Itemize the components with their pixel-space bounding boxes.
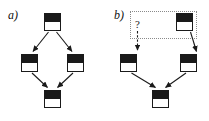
node-right-empty-half bbox=[181, 63, 196, 71]
edge-top-to-right bbox=[57, 32, 73, 52]
node-top-empty-half bbox=[45, 22, 60, 30]
node-right-filled-half bbox=[68, 55, 83, 63]
panel-a: a) bbox=[0, 0, 105, 121]
figure-canvas: a) bbox=[0, 0, 209, 121]
node-bottom[interactable] bbox=[44, 90, 61, 108]
node-left-empty-half bbox=[121, 63, 136, 71]
node-left-empty-half bbox=[22, 63, 37, 71]
node-left[interactable] bbox=[120, 54, 137, 72]
node-right-filled-half bbox=[181, 55, 196, 63]
node-bottom-filled-half bbox=[153, 91, 168, 99]
panel-b: b) ? bbox=[104, 0, 209, 121]
node-left[interactable] bbox=[21, 54, 38, 72]
node-left-filled-half bbox=[22, 55, 37, 63]
node-top[interactable] bbox=[44, 13, 61, 31]
node-top[interactable] bbox=[176, 13, 193, 31]
node-top-empty-half bbox=[177, 22, 192, 30]
node-right[interactable] bbox=[67, 54, 84, 72]
node-bottom-empty-half bbox=[153, 99, 168, 107]
node-left-filled-half bbox=[121, 55, 136, 63]
node-bottom-empty-half bbox=[45, 99, 60, 107]
node-top-filled-half bbox=[45, 14, 60, 22]
edge-top-to-right bbox=[191, 32, 197, 52]
node-right-empty-half bbox=[68, 63, 83, 71]
edge-top-to-left bbox=[33, 32, 49, 52]
node-bottom-filled-half bbox=[45, 91, 60, 99]
edge-right-to-bottom bbox=[58, 73, 74, 88]
node-right[interactable] bbox=[180, 54, 197, 72]
edge-right-to-bottom bbox=[166, 73, 187, 88]
node-bottom[interactable] bbox=[152, 90, 169, 108]
edge-left-to-bottom bbox=[132, 73, 156, 88]
node-top-filled-half bbox=[177, 14, 192, 22]
edge-left-to-bottom bbox=[32, 73, 48, 88]
